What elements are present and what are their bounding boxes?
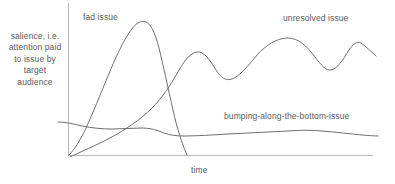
series-label-bumping-along-the-bottom-issue: bumping-along-the-bottom-issue xyxy=(224,111,349,122)
series-label-unresolved-issue: unresolved issue xyxy=(283,13,348,24)
curve-bumping-along-the-bottom-issue xyxy=(58,122,378,136)
issue-attention-chart: salience, i.e. attention paid to issue b… xyxy=(0,0,395,184)
y-axis-label: salience, i.e. attention paid to issue b… xyxy=(8,31,62,88)
chart-canvas xyxy=(0,0,395,184)
curve-unresolved-issue xyxy=(70,38,376,157)
series-label-fad-issue: fad issue xyxy=(83,12,118,23)
x-axis-label: time xyxy=(191,165,207,176)
